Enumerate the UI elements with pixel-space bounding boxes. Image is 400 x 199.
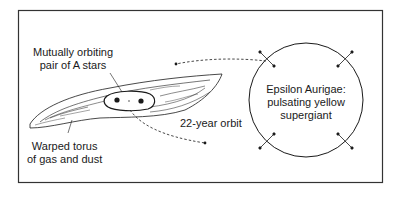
binary-label-line2: pair of A stars bbox=[33, 59, 113, 72]
torus-leader-line bbox=[68, 120, 72, 133]
orbit-label: 22-year orbit bbox=[180, 117, 242, 130]
orbit-arrowhead-upper bbox=[175, 63, 178, 66]
orbit-arrow-upper bbox=[176, 59, 266, 64]
supergiant-label: Epsilon Aurigae: pulsating yellow superg… bbox=[257, 83, 355, 122]
supergiant-label-line3: supergiant bbox=[257, 109, 355, 122]
supergiant-label-line1: Epsilon Aurigae: bbox=[257, 83, 355, 96]
binary-leader-line bbox=[110, 73, 122, 92]
torus-label: Warped torus of gas and dust bbox=[27, 140, 102, 166]
binary-label-line1: Mutually orbiting bbox=[33, 46, 113, 59]
binary-label: Mutually orbiting pair of A stars bbox=[33, 46, 113, 72]
supergiant-label-line2: pulsating yellow bbox=[257, 96, 355, 109]
barycenter-dot bbox=[128, 100, 129, 101]
torus-label-line2: of gas and dust bbox=[27, 153, 102, 166]
torus-label-line1: Warped torus bbox=[27, 140, 102, 153]
star-a-icon bbox=[114, 97, 119, 102]
orbit-arrowhead-lower bbox=[204, 142, 207, 145]
star-b-icon bbox=[138, 98, 143, 103]
